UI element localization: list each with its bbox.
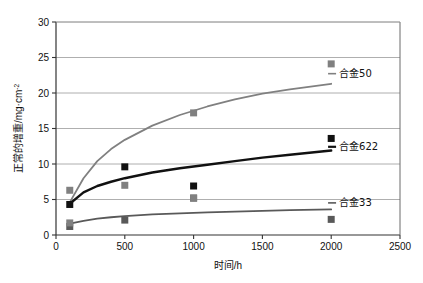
series-label-3: 合金33 [339, 196, 372, 208]
marker-series-2-point-4 [328, 135, 335, 142]
y-tick-label-15: 15 [38, 123, 50, 134]
x-tick-label-2000: 2000 [320, 241, 343, 252]
y-tick-label-25: 25 [38, 52, 50, 63]
marker-series-2-point-1 [66, 201, 73, 208]
y-tick-label-5: 5 [43, 194, 49, 205]
x-tick-label-1000: 1000 [182, 241, 205, 252]
x-tick-label-500: 500 [116, 241, 133, 252]
x-tick-label-0: 0 [53, 241, 59, 252]
marker-series-2-point-2 [121, 163, 128, 170]
marker-series-2-point-3 [190, 183, 197, 190]
weight-gain-vs-time-chart: 05001000150020002500 051015202530 合金50合金… [0, 0, 423, 283]
chart-container: 05001000150020002500 051015202530 合金50合金… [0, 0, 423, 283]
marker-extra-1 [66, 219, 73, 226]
marker-series-1-point-1 [66, 187, 73, 194]
y-tick-label-30: 30 [38, 17, 50, 28]
marker-series-1-point-3 [190, 109, 197, 116]
marker-series-1-point-2 [121, 182, 128, 189]
y-tick-label-20: 20 [38, 88, 50, 99]
marker-series-3-point-4 [328, 216, 335, 223]
series-label-1: 合金50 [339, 67, 372, 79]
y-tick-label-10: 10 [38, 159, 50, 170]
y-axis-title: 正常的增重/mg·cm-2 [12, 84, 24, 174]
x-axis-title: 时间/h [214, 259, 242, 271]
marker-extra-2 [190, 195, 197, 202]
marker-series-3-point-2 [121, 217, 128, 224]
y-tick-label-0: 0 [43, 230, 49, 241]
x-tick-label-2500: 2500 [389, 241, 412, 252]
series-label-2: 合金622 [339, 140, 378, 152]
marker-series-1-point-4 [328, 60, 335, 67]
x-tick-label-1500: 1500 [251, 241, 274, 252]
